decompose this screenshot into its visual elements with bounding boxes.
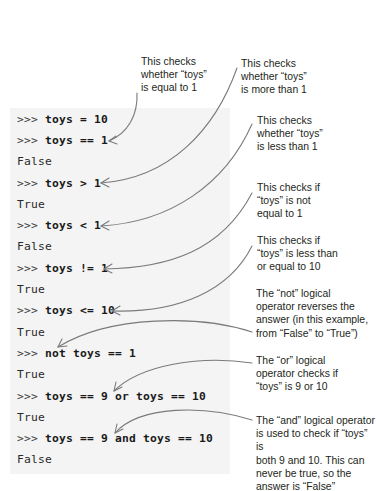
arrow-or-operator-icon (114, 360, 252, 391)
arrow-less-icon (101, 124, 252, 226)
arrow-not-operator-icon (58, 321, 252, 347)
arrow-and-operator-icon (115, 410, 252, 433)
arrow-more-icon (101, 68, 237, 183)
arrow-equal-icon (109, 93, 137, 141)
callout-arrows (0, 0, 377, 491)
